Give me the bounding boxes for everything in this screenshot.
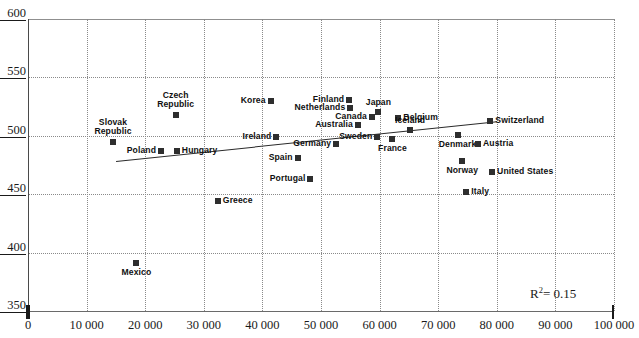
data-point-label: Japan (366, 98, 391, 107)
gridline-vertical (321, 19, 322, 311)
data-point-marker (346, 97, 352, 103)
data-point-marker (369, 114, 375, 120)
data-point-label: Korea (241, 96, 266, 105)
data-point-marker (355, 122, 361, 128)
data-point-marker (455, 132, 461, 138)
data-point-marker (133, 260, 139, 266)
y-tick-label: 350 (0, 298, 26, 313)
gridline-horizontal (28, 77, 614, 78)
data-point-label: Poland (127, 146, 156, 155)
data-point-label: Spain (269, 153, 293, 162)
gridline-vertical (438, 19, 439, 311)
data-point-marker (110, 139, 116, 145)
x-tick-label: 90 000 (525, 318, 585, 333)
gridline-horizontal (28, 253, 614, 254)
data-point-marker (215, 198, 221, 204)
data-point-label: Norway (446, 166, 478, 175)
data-point-label: United States (497, 167, 553, 176)
data-point-label: Iceland (395, 116, 425, 125)
data-point-label: France (378, 144, 407, 153)
x-tick-label: 0 (0, 318, 58, 333)
x-tick-label: 20 000 (115, 318, 175, 333)
data-point-label: Mexico (122, 268, 152, 277)
x-tick-label: 40 000 (232, 318, 292, 333)
data-point-marker (487, 118, 493, 124)
gridline-vertical (614, 19, 615, 311)
data-point-marker (295, 155, 301, 161)
y-tick-label: 600 (0, 6, 26, 21)
x-tick-label: 80 000 (467, 318, 527, 333)
data-point-marker (459, 158, 465, 164)
data-point-label: Ireland (243, 132, 272, 141)
data-point-marker (463, 189, 469, 195)
origin-tick (26, 305, 30, 319)
data-point-marker (158, 148, 164, 154)
data-point-label: Italy (471, 187, 489, 196)
x-tick-label: 30 000 (174, 318, 234, 333)
data-point-marker (389, 136, 395, 142)
x-axis-end-tick (612, 305, 614, 319)
gridline-vertical (555, 19, 556, 311)
y-tick-label: 500 (0, 123, 26, 138)
data-point-marker (173, 112, 179, 118)
gridline-vertical (204, 19, 205, 311)
data-point-label: Austria (483, 139, 513, 148)
gridline-vertical (380, 19, 381, 311)
data-point-marker (375, 109, 381, 115)
gridline-vertical (87, 19, 88, 311)
data-point-marker (268, 98, 274, 104)
x-tick-label: 10 000 (57, 318, 117, 333)
x-tick-label: 60 000 (350, 318, 410, 333)
y-axis-line (28, 19, 29, 311)
data-point-label: Greece (223, 197, 253, 206)
data-point-marker (333, 141, 339, 147)
data-point-marker (307, 176, 313, 182)
data-point-label: Portugal (270, 174, 306, 183)
data-point-marker (273, 134, 279, 140)
data-point-label: Canada (335, 112, 367, 121)
data-point-label: CzechRepublic (157, 91, 194, 110)
x-tick-label: 100 000 (584, 318, 639, 333)
data-point-marker (475, 141, 481, 147)
data-point-label: Australia (315, 121, 353, 130)
y-tick-label: 550 (0, 64, 26, 79)
data-point-marker (489, 169, 495, 175)
data-point-label: Switzerland (495, 116, 544, 125)
gridline-horizontal (28, 194, 614, 195)
gridline-vertical (497, 19, 498, 311)
data-point-marker (374, 134, 380, 140)
x-tick-label: 50 000 (291, 318, 351, 333)
plot-area: MexicoSlovakRepublicPolandHungaryCzechRe… (28, 19, 614, 311)
gridline-vertical (262, 19, 263, 311)
data-point-label: Sweden (339, 132, 372, 141)
x-tick-label: 70 000 (408, 318, 468, 333)
data-point-label: Germany (293, 139, 331, 148)
data-point-label: Denmark (439, 140, 476, 149)
y-tick-label: 400 (0, 240, 26, 255)
data-point-marker (407, 127, 413, 133)
y-tick-label: 450 (0, 181, 26, 196)
data-point-marker (174, 148, 180, 154)
r-squared-annotation: R2= 0.15 (530, 285, 576, 302)
data-point-marker (347, 105, 353, 111)
x-axis-line (28, 311, 614, 312)
data-point-label: SlovakRepublic (94, 118, 131, 137)
data-point-label: Hungary (182, 146, 218, 155)
